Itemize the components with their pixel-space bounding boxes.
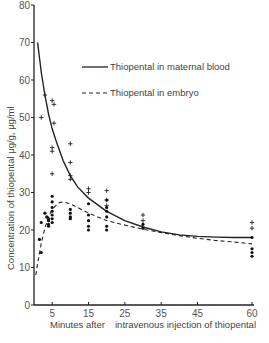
dot-marker-icon — [51, 217, 54, 220]
plus-marker-icon — [50, 149, 54, 153]
legend-label-maternal-blood: Thiopental in maternal blood — [110, 61, 230, 72]
dot-marker-icon — [38, 238, 41, 241]
y-tick-label: 20 — [19, 225, 31, 236]
plus-marker-icon — [86, 190, 90, 194]
dot-marker-icon — [51, 206, 54, 209]
dot-marker-icon — [105, 215, 108, 218]
plus-marker-icon — [250, 220, 254, 224]
dot-marker-icon — [141, 223, 144, 226]
dot-marker-icon — [51, 221, 54, 224]
data-points — [38, 93, 254, 258]
dot-marker-icon — [51, 200, 54, 203]
x-tick-label: 15 — [83, 308, 95, 319]
dot-marker-icon — [250, 236, 253, 239]
plus-marker-icon — [86, 187, 90, 191]
y-tick-label: 80 — [19, 0, 31, 11]
plus-marker-icon — [250, 226, 254, 230]
y-axis-title: Concentration of thiopental μg/g, μg/ml — [5, 106, 16, 270]
dot-marker-icon — [69, 212, 72, 215]
plus-marker-icon — [68, 160, 72, 164]
dot-marker-icon — [105, 206, 108, 209]
dot-marker-icon — [87, 202, 90, 205]
legend-label-embryo: Thiopental in embryo — [110, 87, 199, 98]
dot-marker-icon — [40, 251, 43, 254]
dot-marker-icon — [250, 251, 253, 254]
dot-marker-icon — [250, 247, 253, 250]
dot-marker-icon — [40, 221, 43, 224]
x-tick-label: 5 — [49, 308, 55, 319]
plus-marker-icon — [50, 172, 54, 176]
dot-marker-icon — [105, 198, 108, 201]
dot-marker-icon — [87, 219, 90, 222]
curves — [36, 43, 252, 276]
dot-marker-icon — [87, 213, 90, 216]
dot-marker-icon — [51, 195, 54, 198]
plus-marker-icon — [68, 142, 72, 146]
embryo-curve — [36, 202, 252, 275]
dot-marker-icon — [51, 210, 54, 213]
plus-marker-icon — [50, 145, 54, 149]
x-axis-title-right: intravenous injection of thiopental — [115, 319, 256, 330]
x-tick-label: 60 — [246, 308, 258, 319]
y-tick-label: 30 — [19, 187, 31, 198]
dot-marker-icon — [87, 228, 90, 231]
plus-marker-icon — [141, 213, 145, 217]
plus-marker-icon — [141, 218, 145, 222]
x-tick-label: 45 — [192, 308, 204, 319]
dot-marker-icon — [105, 228, 108, 231]
y-ticks: 01020304050607080 — [19, 0, 34, 311]
x-tick-label: 25 — [119, 308, 131, 319]
dot-marker-icon — [105, 225, 108, 228]
y-tick-label: 50 — [19, 112, 31, 123]
plus-marker-icon — [52, 121, 56, 125]
plus-marker-icon — [104, 188, 108, 192]
legend: Thiopental in maternal blood Thiopental … — [82, 61, 230, 98]
dot-marker-icon — [69, 208, 72, 211]
y-tick-label: 0 — [24, 300, 30, 311]
dot-marker-icon — [47, 225, 50, 228]
chart: 01020304050607080 51525354560 Thiopental… — [0, 0, 269, 343]
dot-marker-icon — [87, 225, 90, 228]
y-tick-label: 40 — [19, 150, 31, 161]
y-tick-label: 70 — [19, 37, 31, 48]
dot-marker-icon — [250, 255, 253, 258]
dot-marker-icon — [51, 213, 54, 216]
dot-marker-icon — [47, 217, 50, 220]
y-tick-label: 10 — [19, 262, 31, 273]
dot-marker-icon — [43, 212, 46, 215]
y-tick-label: 60 — [19, 75, 31, 86]
plus-marker-icon — [50, 98, 54, 102]
plus-marker-icon — [39, 115, 43, 119]
axes: 01020304050607080 51525354560 — [19, 0, 258, 319]
plus-marker-icon — [52, 102, 56, 106]
plus-marker-icon — [43, 93, 47, 97]
dot-marker-icon — [141, 227, 144, 230]
dot-marker-icon — [69, 217, 72, 220]
x-tick-label: 35 — [156, 308, 168, 319]
x-axis-title-left: Minutes after — [50, 319, 105, 330]
dot-marker-icon — [105, 210, 108, 213]
